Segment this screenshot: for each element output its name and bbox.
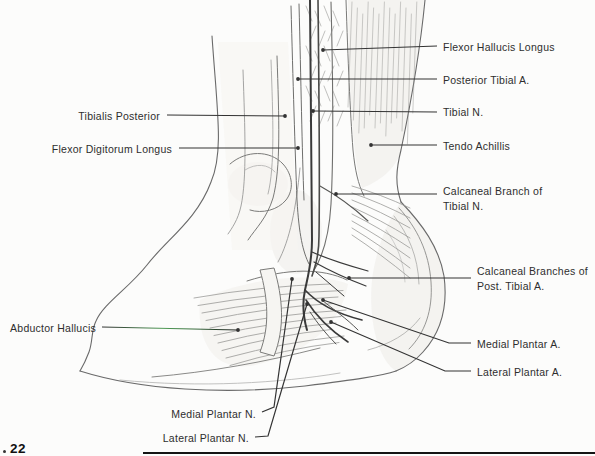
anatomy-figure: Flexor Hallucis LongusPosterior Tibial A… [0,0,595,456]
label-lateral-plantar-n: Lateral Plantar N. [163,431,249,446]
label-flexor-digitorum-longus: Flexor Digitorum Longus [52,142,172,157]
leader-tibial-n [311,109,437,113]
label-calcaneal-branches-post-tibial-a: Calcaneal Branches of Post. Tibial A. [477,264,595,294]
leader-medial-plantar-n [262,277,294,412]
label-tibial-n: Tibial N. [443,105,483,120]
label-posterior-tibial-a: Posterior Tibial A. [443,73,529,88]
leader-medial-plantar-a [321,298,471,343]
bottom-rule [143,452,595,454]
label-tibialis-posterior: Tibialis Posterior [78,109,160,124]
leader-tibialis-posterior [167,114,287,118]
label-lateral-plantar-a: Lateral Plantar A. [477,365,562,380]
cropped-caption-dot [3,450,6,453]
label-abductor-hallucis: Abductor Hallucis [10,321,96,336]
label-medial-plantar-a: Medial Plantar A. [477,337,561,352]
figure-number: 22 [10,441,26,456]
leader-calcaneal-branches-post-tibial-a [347,276,471,280]
label-calcaneal-branch-tibial-n: Calcaneal Branch of Tibial N. [443,184,561,214]
leader-calcaneal-branch-tibial-n [334,192,437,196]
label-medial-plantar-n: Medial Plantar N. [171,407,256,422]
leader-flexor-hallucis-longus [321,46,437,52]
leader-abductor-hallucis [102,327,240,332]
leader-posterior-tibial-a [296,77,437,81]
label-tendo-achillis: Tendo Achillis [443,139,510,154]
leader-flexor-digitorum-longus [179,146,300,150]
leader-lateral-plantar-n [255,302,309,437]
leader-lateral-plantar-a [329,320,471,371]
leader-tendo-achillis [369,143,437,147]
label-flexor-hallucis-longus: Flexor Hallucis Longus [443,40,555,55]
leader-lines [0,0,595,456]
